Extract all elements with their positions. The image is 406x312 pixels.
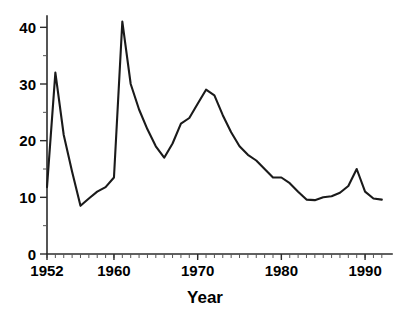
y-tick-label-30: 30 [19, 76, 36, 93]
x-tick-label-1970: 1970 [181, 262, 214, 279]
y-tick-label-10: 10 [19, 189, 36, 206]
x-axis-minor-ticks [47, 254, 382, 258]
x-tick-label-1952: 1952 [30, 262, 63, 279]
y-axis-tick-labels: 010203040 [19, 19, 36, 263]
x-axis-tick-labels: 19521960197019801990 [30, 262, 381, 279]
data-line-series-1 [47, 22, 382, 206]
x-tick-label-1980: 1980 [265, 262, 298, 279]
x-tick-label-1990: 1990 [348, 262, 381, 279]
x-axis-title: Year [187, 288, 223, 307]
data-series-group [47, 22, 382, 206]
y-tick-label-20: 20 [19, 132, 36, 149]
chart-container: 010203040 19521960197019801990 Year [0, 0, 406, 312]
y-tick-label-0: 0 [28, 246, 36, 263]
y-tick-label-40: 40 [19, 19, 36, 36]
line-chart-plot: 010203040 19521960197019801990 Year [0, 0, 406, 312]
y-axis-major-ticks [40, 27, 47, 254]
x-tick-label-1960: 1960 [97, 262, 130, 279]
